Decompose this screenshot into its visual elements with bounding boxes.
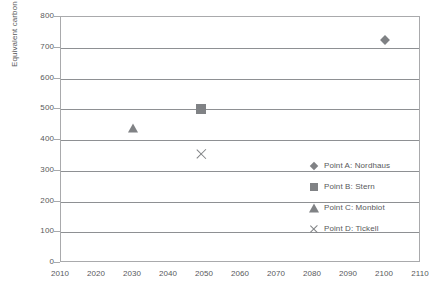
legend-label: Point C: Monbiot	[324, 203, 385, 212]
y-tick-mark	[54, 231, 60, 232]
gridline	[61, 109, 419, 110]
x-tick-label: 2020	[76, 270, 116, 278]
x-tick-label: 2080	[292, 270, 332, 278]
y-tick-mark	[54, 78, 60, 79]
y-tick-label: 700	[10, 43, 54, 51]
gridline	[61, 48, 419, 49]
y-tick-mark	[54, 139, 60, 140]
y-tick-label: 800	[10, 12, 54, 20]
legend-label: Point D: Tickell	[324, 224, 379, 233]
square-icon	[307, 180, 321, 194]
y-tick-mark	[54, 170, 60, 171]
x-icon	[307, 222, 321, 236]
y-tick-label: 300	[10, 166, 54, 174]
y-tick-mark	[54, 16, 60, 17]
y-tick-label: 500	[10, 104, 54, 112]
y-tick-mark	[54, 47, 60, 48]
chart-title	[0, 0, 436, 5]
gridline	[61, 140, 419, 141]
y-tick-label: 0	[10, 258, 54, 266]
y-tick-label: 100	[10, 227, 54, 235]
y-tick-label: 600	[10, 74, 54, 82]
chart-legend: Point A: NordhausPoint B: SternPoint C: …	[307, 155, 419, 239]
data-point-square[interactable]	[196, 104, 206, 114]
legend-label: Point A: Nordhaus	[324, 161, 390, 170]
y-tick-mark	[54, 201, 60, 202]
data-point-triangle[interactable]	[128, 123, 138, 132]
x-tick-label: 2050	[184, 270, 224, 278]
legend-item[interactable]: Point D: Tickell	[307, 218, 419, 239]
legend-item[interactable]: Point A: Nordhaus	[307, 155, 419, 176]
x-tick-label: 2090	[328, 270, 368, 278]
y-tick-label: 200	[10, 197, 54, 205]
legend-item[interactable]: Point C: Monbiot	[307, 197, 419, 218]
y-tick-mark	[54, 108, 60, 109]
triangle-icon	[307, 201, 321, 215]
x-tick-label: 2030	[112, 270, 152, 278]
diamond-icon	[307, 159, 321, 173]
gridline	[61, 79, 419, 80]
x-tick-label: 2070	[256, 270, 296, 278]
y-axis-title: Equivalent carbon dioxide ppm	[10, 0, 22, 67]
chart-root: Equivalent carbon dioxide ppm 8007006005…	[0, 0, 436, 294]
x-tick-label: 2100	[364, 270, 404, 278]
y-tick-mark	[54, 262, 60, 263]
x-tick-label: 2110	[400, 270, 436, 278]
y-tick-label: 400	[10, 135, 54, 143]
data-point-diamond[interactable]	[380, 35, 390, 45]
legend-label: Point B: Stern	[324, 182, 375, 191]
x-tick-label: 2040	[148, 270, 188, 278]
legend-item[interactable]: Point B: Stern	[307, 176, 419, 197]
x-tick-label: 2060	[220, 270, 260, 278]
data-point-x[interactable]	[195, 147, 208, 160]
x-tick-label: 2010	[40, 270, 80, 278]
